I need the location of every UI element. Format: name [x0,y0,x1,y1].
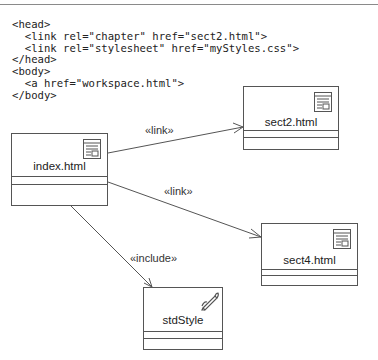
node-name: sect2.html [244,116,338,128]
node-name: index.html [12,160,107,172]
pencil-icon [200,291,220,311]
web-page-icon [333,229,351,249]
node-stdstyle[interactable]: stdStyle [143,287,223,350]
web-page-icon [314,92,332,112]
node-sect4-html[interactable]: sect4.html [261,223,358,286]
node-sect2-html[interactable]: sect2.html [243,86,339,150]
compartment-divider [144,331,222,332]
include-edge-stdstyle [71,206,152,287]
edge-label-include: «include» [130,252,177,264]
edge-label-link: «link» [164,185,193,197]
compartment-divider [12,184,107,185]
link-edge-sect2 [108,127,243,153]
node-name: stdStyle [144,314,222,326]
compartment-divider [262,269,357,270]
compartment-divider [244,130,338,131]
compartment-divider [12,176,107,177]
edge-label-link: «link» [145,124,174,136]
compartment-divider [244,137,338,138]
node-name: sect4.html [262,254,357,266]
compartment-divider [144,338,222,339]
web-page-icon [83,139,101,159]
node-index-html[interactable]: index.html [11,133,108,206]
compartment-divider [262,275,357,276]
